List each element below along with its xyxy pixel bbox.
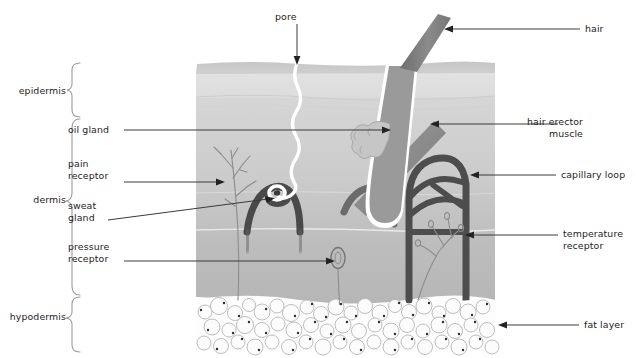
skin-diagram: epidermis dermis hypodermis pore hair ha… bbox=[0, 0, 635, 358]
callout-label-fat-layer: fat layer bbox=[584, 319, 624, 331]
callout-label-pore: pore bbox=[275, 11, 297, 23]
skin-block bbox=[196, 62, 495, 307]
layer-label-dermis: dermis bbox=[0, 194, 66, 206]
callout-label-hair: hair bbox=[585, 23, 604, 35]
bracket-hypodermis bbox=[66, 297, 80, 352]
callout-label-pain-receptor: pain receptor bbox=[68, 158, 108, 181]
layer-label-hypodermis: hypodermis bbox=[0, 311, 66, 323]
layer-label-epidermis: epidermis bbox=[0, 85, 66, 97]
callout-label-pressure-receptor: pressure receptor bbox=[68, 241, 109, 264]
callout-label-temperature-receptor: temperature receptor bbox=[563, 228, 623, 251]
arrowhead-fat-layer bbox=[498, 322, 507, 329]
callout-label-hair-erector-muscle: hair erector muscle bbox=[498, 116, 583, 139]
epidermis-band bbox=[196, 62, 495, 75]
epidermis-body bbox=[196, 71, 495, 98]
callout-label-capillary-loop: capillary loop bbox=[561, 169, 625, 181]
fat-layer-cells bbox=[196, 295, 499, 355]
bracket-epidermis bbox=[67, 63, 80, 117]
callout-label-oil-gland: oil gland bbox=[68, 124, 109, 136]
callout-label-sweat-gland: sweat gland bbox=[68, 200, 96, 223]
